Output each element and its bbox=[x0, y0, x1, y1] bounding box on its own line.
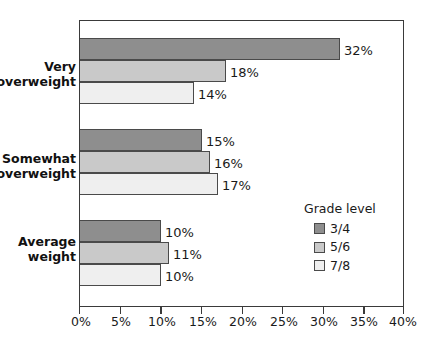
legend-label-3-4: 3/4 bbox=[330, 223, 350, 236]
bar-average-weight-3-4 bbox=[80, 220, 161, 242]
x-tick-25 bbox=[282, 307, 283, 314]
bar-somewhat-overweight-5-6 bbox=[80, 151, 210, 173]
x-tick-15 bbox=[201, 307, 202, 314]
x-tick-label-30: 30% bbox=[310, 316, 338, 329]
x-axis-tick-labels: 0% 5% 10% 15% 20% 25% 30% 35% 40% bbox=[0, 316, 425, 336]
x-tick-label-0: 0% bbox=[71, 316, 91, 329]
x-tick-40 bbox=[403, 307, 404, 314]
x-tick-10 bbox=[160, 307, 161, 314]
data-label-average-weight-7-8: 10% bbox=[165, 270, 194, 283]
bar-somewhat-overweight-3-4 bbox=[80, 129, 202, 151]
bar-average-weight-7-8 bbox=[80, 264, 161, 286]
bar-average-weight-5-6 bbox=[80, 242, 169, 264]
data-label-very-overweight-3-4: 32% bbox=[344, 44, 373, 57]
data-label-very-overweight-5-6: 18% bbox=[230, 66, 259, 79]
title-remnant bbox=[205, 0, 420, 6]
data-label-very-overweight-7-8: 14% bbox=[198, 88, 227, 101]
legend-swatch-icon-7-8 bbox=[314, 260, 325, 271]
category-label-average-weight: Average weight bbox=[0, 235, 76, 265]
data-label-average-weight-3-4: 10% bbox=[165, 226, 194, 239]
x-axis-ticks bbox=[79, 307, 405, 314]
legend-swatch-icon-5-6 bbox=[314, 242, 325, 253]
category-label-very-overweight: Very overweight bbox=[0, 60, 76, 90]
x-tick-0 bbox=[79, 307, 80, 314]
x-tick-label-10: 10% bbox=[148, 316, 176, 329]
legend-title: Grade level bbox=[300, 203, 400, 216]
x-tick-35 bbox=[363, 307, 364, 314]
legend-swatch-icon-3-4 bbox=[314, 223, 325, 234]
data-label-somewhat-overweight-7-8: 17% bbox=[222, 179, 251, 192]
bar-very-overweight-3-4 bbox=[80, 38, 340, 60]
x-tick-5 bbox=[120, 307, 121, 314]
data-label-somewhat-overweight-5-6: 16% bbox=[214, 157, 243, 170]
legend-label-5-6: 5/6 bbox=[330, 241, 350, 254]
legend-label-7-8: 7/8 bbox=[330, 260, 350, 273]
x-tick-label-40: 40% bbox=[389, 316, 417, 329]
data-label-average-weight-5-6: 11% bbox=[173, 248, 202, 261]
bar-very-overweight-5-6 bbox=[80, 60, 226, 82]
bar-somewhat-overweight-7-8 bbox=[80, 173, 218, 195]
legend: Grade level 3/4 5/6 7/8 bbox=[300, 203, 400, 278]
category-label-somewhat-overweight: Somewhat overweight bbox=[0, 152, 76, 182]
legend-item-3-4: 3/4 bbox=[300, 223, 400, 236]
x-tick-label-20: 20% bbox=[229, 316, 257, 329]
bar-chart: Very overweight Somewhat overweight Aver… bbox=[0, 0, 425, 349]
x-tick-label-15: 15% bbox=[189, 316, 217, 329]
bar-very-overweight-7-8 bbox=[80, 82, 194, 104]
x-tick-label-35: 35% bbox=[350, 316, 378, 329]
x-tick-label-25: 25% bbox=[270, 316, 298, 329]
data-label-somewhat-overweight-3-4: 15% bbox=[206, 135, 235, 148]
legend-item-5-6: 5/6 bbox=[300, 241, 400, 254]
legend-item-7-8: 7/8 bbox=[300, 260, 400, 273]
x-tick-label-5: 5% bbox=[111, 316, 131, 329]
x-tick-20 bbox=[242, 307, 243, 314]
x-tick-30 bbox=[323, 307, 324, 314]
